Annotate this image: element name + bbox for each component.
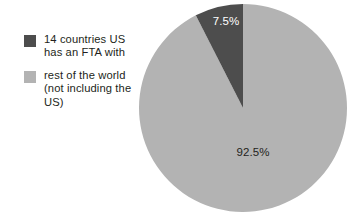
pie-data-label-rest-of-world: 92.5% bbox=[236, 146, 269, 158]
pie-data-label-fta-countries: 7.5% bbox=[213, 15, 240, 27]
pie-chart-graphic: 7.5% 92.5% bbox=[0, 0, 358, 222]
pie-slice-rest-of-world bbox=[139, 4, 347, 212]
pie-chart-figure: 14 countries US has an FTA with rest of … bbox=[0, 0, 358, 222]
